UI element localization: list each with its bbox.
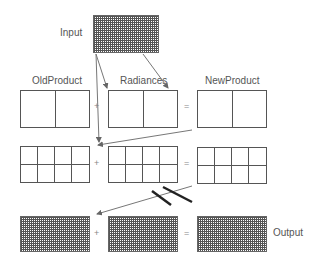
arrows-layer	[0, 0, 316, 265]
arrow-input-to-radiances	[96, 54, 107, 88]
arrow-input-to-radiances-right	[143, 54, 168, 88]
arrow-newproduct-to-row2	[98, 130, 192, 145]
break-marks-icon	[152, 187, 192, 205]
arrow-row2-to-row3	[97, 186, 192, 214]
arrow-input-to-row2	[96, 54, 99, 142]
